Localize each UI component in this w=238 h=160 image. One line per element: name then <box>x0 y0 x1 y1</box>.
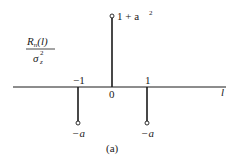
autocorrelation-stem-plot: 1 + a 2 Rn(l) σ 2 z −1 0 1 l −a −a (a) <box>0 0 238 160</box>
tick-label-neg1: −1 <box>73 74 85 86</box>
stem-marker-lag-neg1 <box>76 121 80 125</box>
ylabel-denominator-sup: 2 <box>40 49 44 57</box>
ylabel-denominator: σ <box>33 52 39 64</box>
value-label-lag-0-sup: 2 <box>149 9 153 17</box>
ylabel-denominator-sub: z <box>39 58 43 66</box>
value-label-lag-0: 1 + a <box>117 10 139 22</box>
x-axis-label: l <box>221 86 224 98</box>
stem-marker-lag-0 <box>110 14 114 18</box>
tick-label-1: 1 <box>145 74 151 86</box>
value-label-lag-1: −a <box>141 127 154 139</box>
value-label-lag-neg1: −a <box>72 127 85 139</box>
figure-caption: (a) <box>106 142 119 155</box>
stem-marker-lag-1 <box>145 121 149 125</box>
ylabel-numerator: Rn(l) <box>26 35 48 49</box>
tick-label-0: 0 <box>109 88 115 100</box>
